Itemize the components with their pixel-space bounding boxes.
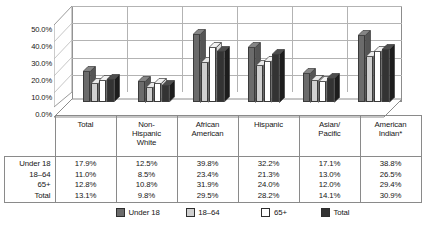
- table-row-label: Total: [5, 190, 56, 202]
- table-corner-cell: [5, 116, 56, 157]
- bar-top-face: [209, 42, 216, 47]
- table-row-label: 65+: [5, 180, 56, 191]
- bar-top-face: [99, 75, 106, 80]
- table-column-header-line: Indian*: [361, 129, 421, 138]
- legend-swatch: [321, 208, 330, 217]
- legend-item: 18–64: [186, 208, 220, 217]
- table-cell-value: 29.5%: [177, 190, 238, 202]
- bar: [154, 83, 161, 102]
- table-row: Total13.1%9.8%29.5%28.2%14.1%30.9%: [5, 190, 422, 202]
- table-cell-value: 8.5%: [116, 169, 177, 180]
- bar-top-face: [107, 74, 114, 79]
- bar: [264, 61, 271, 102]
- legend-item: 65+: [261, 208, 286, 217]
- bar: [99, 80, 106, 102]
- table-column-header-line: African: [178, 120, 238, 129]
- table-cell-value: 39.8%: [177, 157, 238, 170]
- bar: [217, 51, 224, 102]
- table-header-row: TotalNon-HispanicWhiteAfricanAmericanHis…: [5, 116, 422, 157]
- bar: [311, 80, 318, 102]
- bar-face: [327, 78, 334, 102]
- table-row: 18–6411.0%8.5%23.4%21.3%13.0%26.5%: [5, 169, 422, 180]
- bar: [374, 51, 381, 102]
- bar: [209, 47, 216, 102]
- bar: [382, 49, 389, 102]
- bar-face: [311, 80, 318, 102]
- y-tick-label: 20.0%: [31, 77, 52, 85]
- bar: [201, 62, 208, 102]
- table-column-header: Hispanic: [238, 116, 299, 157]
- bar-side-face: [334, 78, 339, 102]
- table-cell-value: 14.1%: [299, 190, 360, 202]
- legend-swatch: [116, 208, 125, 217]
- table-cell-value: 13.0%: [299, 169, 360, 180]
- bar-top-face: [217, 46, 224, 51]
- bar-series-container: [54, 6, 402, 118]
- bar-face: [374, 51, 381, 102]
- table-body: Under 1817.9%12.5%39.8%32.2%17.1%38.8%18…: [5, 157, 422, 203]
- table-row: 65+12.8%10.8%31.9%24.0%12.0%29.4%: [5, 180, 422, 191]
- bar-face: [162, 85, 169, 102]
- bar: [319, 81, 326, 102]
- table-column-header-line: Asian/: [300, 120, 360, 129]
- legend-swatch: [261, 208, 270, 217]
- bar-top-face: [311, 75, 318, 80]
- bar-face: [91, 83, 98, 102]
- table-cell-value: 12.5%: [116, 157, 177, 170]
- table-cell-value: 30.9%: [360, 190, 421, 202]
- table-head: TotalNon-HispanicWhiteAfricanAmericanHis…: [5, 116, 422, 157]
- bar-top-face: [366, 51, 373, 56]
- y-tick-label: 40.0%: [31, 43, 52, 51]
- bar-face: [248, 47, 255, 102]
- bar-face: [107, 79, 114, 102]
- legend-label: 18–64: [198, 208, 219, 217]
- bar-top-face: [146, 82, 153, 87]
- bar-face: [99, 80, 106, 102]
- table-cell-value: 38.8%: [360, 157, 421, 170]
- table-cell-value: 28.2%: [238, 190, 299, 202]
- y-axis: 50.0% 40.0% 30.0% 20.0% 10.0% 0.0%: [0, 0, 54, 118]
- bar-face: [138, 81, 145, 103]
- table-row: Under 1817.9%12.5%39.8%32.2%17.1%38.8%: [5, 157, 422, 170]
- plot-area: 50.0% 40.0% 30.0% 20.0% 10.0% 0.0%: [0, 0, 418, 118]
- bar-face: [366, 56, 373, 102]
- bar-face: [154, 83, 161, 102]
- bar: [146, 87, 153, 102]
- bar-top-face: [138, 76, 145, 81]
- bar-top-face: [319, 76, 326, 81]
- table-column-header-line: Total: [56, 120, 116, 129]
- bar-top-face: [162, 80, 169, 85]
- bar: [107, 79, 114, 102]
- bar: [358, 35, 365, 102]
- bar-face: [382, 49, 389, 102]
- data-table: TotalNon-HispanicWhiteAfricanAmericanHis…: [4, 115, 414, 200]
- bar-face: [193, 34, 200, 102]
- table-column-header: Total: [55, 116, 116, 157]
- bar-face: [209, 47, 216, 102]
- bar-top-face: [374, 46, 381, 51]
- table-row-label: 18–64: [5, 169, 56, 180]
- table-row-label: Under 18: [5, 157, 56, 170]
- bar-face: [146, 87, 153, 102]
- table-cell-value: 21.3%: [238, 169, 299, 180]
- legend-swatch: [186, 208, 195, 217]
- bar-top-face: [248, 42, 255, 47]
- table-column-header: Non-HispanicWhite: [116, 116, 177, 157]
- bar: [272, 54, 279, 103]
- bar-side-face: [389, 49, 394, 102]
- table-column-header-line: American: [178, 129, 238, 138]
- table-cell-value: 17.1%: [299, 157, 360, 170]
- bar-top-face: [154, 78, 161, 83]
- bar-top-face: [256, 60, 263, 65]
- bar: [91, 83, 98, 102]
- table-cell-value: 12.8%: [55, 180, 116, 191]
- table-column-header: AfricanAmerican: [177, 116, 238, 157]
- bar-side-face: [114, 79, 119, 102]
- bar-face: [83, 71, 90, 102]
- y-tick-label: 30.0%: [31, 60, 52, 68]
- table-cell-value: 9.8%: [116, 190, 177, 202]
- bar-face: [201, 62, 208, 102]
- table-column-header: AmericanIndian*: [360, 116, 421, 157]
- bar-top-face: [272, 49, 279, 54]
- bar-top-face: [91, 78, 98, 83]
